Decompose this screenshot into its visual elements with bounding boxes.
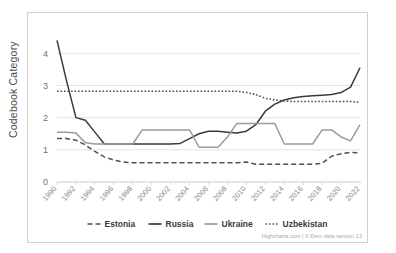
legend-label-russia: Russia <box>166 219 194 229</box>
x-axis-ticks: 1990199219941996199820002002200420062008… <box>41 182 362 203</box>
chart-svg: 01234 1990199219941996199820002002200420… <box>0 0 396 253</box>
chart-legend: EstoniaRussiaUkraineUzbekistan <box>88 219 328 229</box>
series-line-uzbekistan[interactable] <box>57 91 360 102</box>
x-tick-label-2020: 2020 <box>325 184 343 202</box>
x-tick-label-1992: 1992 <box>60 184 78 202</box>
legend-item-ukraine[interactable]: Ukraine <box>205 219 253 229</box>
x-tick-label-2014: 2014 <box>268 184 286 202</box>
x-tick-label-2022: 2022 <box>344 184 362 202</box>
x-tick-label-2010: 2010 <box>230 184 248 202</box>
x-tick-label-2008: 2008 <box>211 184 229 202</box>
y-tick-label-0: 0 <box>43 177 48 187</box>
chart-credits: Highcharts.com | V-Dem data version 13 <box>262 233 362 239</box>
legend-label-estonia: Estonia <box>105 219 136 229</box>
x-tick-label-1996: 1996 <box>97 184 115 202</box>
x-tick-label-2004: 2004 <box>173 184 191 202</box>
x-tick-label-2016: 2016 <box>287 184 305 202</box>
x-tick-label-1994: 1994 <box>79 184 97 202</box>
x-tick-label-2006: 2006 <box>192 184 210 202</box>
legend-item-russia[interactable]: Russia <box>149 219 194 229</box>
legend-item-uzbekistan[interactable]: Uzbekistan <box>266 219 328 229</box>
y-axis-ticks: 01234 <box>43 49 48 188</box>
y-tick-label-1: 1 <box>43 145 48 155</box>
x-tick-label-2012: 2012 <box>249 184 267 202</box>
series-line-ukraine[interactable] <box>57 123 360 147</box>
y-axis-title: Codebook Category <box>7 41 19 138</box>
x-tick-label-2002: 2002 <box>154 184 172 202</box>
x-tick-label-1998: 1998 <box>116 184 134 202</box>
x-tick-label-2000: 2000 <box>135 184 153 202</box>
x-tick-label-2018: 2018 <box>306 184 324 202</box>
chart-container: 01234 1990199219941996199820002002200420… <box>0 0 396 253</box>
legend-label-ukraine: Ukraine <box>222 219 253 229</box>
series-line-russia[interactable] <box>57 40 360 144</box>
legend-label-uzbekistan: Uzbekistan <box>283 219 328 229</box>
y-tick-label-3: 3 <box>43 81 48 91</box>
legend-item-estonia[interactable]: Estonia <box>88 219 136 229</box>
y-tick-label-4: 4 <box>43 49 48 59</box>
y-tick-label-2: 2 <box>43 113 48 123</box>
data-series-group <box>57 40 360 164</box>
